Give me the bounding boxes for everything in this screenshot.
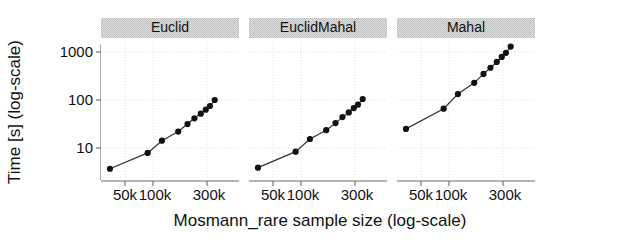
x-tick-label-300k-euclid: 300k [193,186,226,203]
data-point: Euclid: 82000 → 7.9 s [145,150,151,156]
y-tick-label-1000: 1000 [60,43,93,60]
data-point: Euclid: 112000 → 14.2 s [159,138,165,144]
facet-line-chart: Time [s] (log-scale) 1000 100 10 Euclid [0,0,632,240]
panel-strip-label-euclidmahal: EuclidMahal [280,19,356,35]
plot-area-euclidmahal [249,42,387,180]
panel-strip-label-mahal: Mahal [447,19,485,35]
data-point: EuclidMahal: 262000 → 55 s [346,109,352,115]
data-point: EuclidMahal: 36000 → 3.9 s [255,165,261,171]
data-point: Euclid: 160000 → 22 s [175,128,181,134]
data-point: Mahal: 355000 → 1300 s [508,43,514,49]
data-point: Mahal: 262000 → 620 s [494,59,500,65]
x-tick-label-50k-euclidmahal: 50k [261,186,286,203]
x-tick-label-50k-euclid: 50k [113,186,138,203]
data-point: Euclid: 262000 → 52 s [198,111,204,117]
data-point: Euclid: 355000 → 100 s [212,97,218,103]
data-point: Euclid: 228000 → 41.5 s [191,115,197,121]
x-axis-title: Mosmann_rare sample size (log-scale) [174,211,467,230]
data-point: EuclidMahal: 355000 → 105 s [360,96,366,102]
data-point: EuclidMahal: 160000 → 23.5 s [323,127,329,133]
data-point: Euclid: 36000 → 3.7 s [107,166,113,172]
panel-euclid: Euclid Euclid: 36000 → 3.7 sEuclid: 8200… [101,18,239,203]
panel-euclidmahal: EuclidMahal EuclidMahal: 36000 → 3.9 sEu… [249,18,387,203]
data-point: EuclidMahal: 196000 → 33 s [332,120,338,126]
x-tick-label-100k-euclid: 100k [139,186,172,203]
data-point: EuclidMahal: 228000 → 44 s [339,114,345,120]
x-tick-label-300k-mahal: 300k [489,186,522,203]
data-point: EuclidMahal: 112000 → 15.4 s [307,136,313,142]
data-point: Mahal: 82000 → 66 s [441,106,447,112]
y-tick-label-10: 10 [76,139,93,156]
y-axis-title: Time [s] (log-scale) [5,40,24,184]
data-point: Euclid: 320000 → 75 s [207,103,213,109]
panel-mahal: Mahal Mahal: 36000 → 25 sMahal: 82000 → … [397,18,535,203]
data-point: Mahal: 36000 → 25 s [403,126,409,132]
data-point: Euclid: 196000 → 31.5 s [184,121,190,127]
data-point: EuclidMahal: 320000 → 80 s [355,102,361,108]
chart-figure: Time [s] (log-scale) 1000 100 10 Euclid [0,0,632,240]
x-tick-label-100k-euclidmahal: 100k [287,186,320,203]
data-point: Mahal: 112000 → 133 s [455,91,461,97]
plot-area-mahal [397,42,535,180]
data-point: EuclidMahal: 82000 → 8.4 s [293,149,299,155]
plot-area-euclid [101,42,239,180]
panel-strip-label-euclid: Euclid [151,19,189,35]
data-point: Mahal: 320000 → 960 s [503,50,509,56]
data-point: Mahal: 160000 → 228 s [471,80,477,86]
data-point: Mahal: 228000 → 470 s [487,65,493,71]
x-tick-label-50k-mahal: 50k [409,186,434,203]
data-point: Mahal: 196000 → 350 s [480,71,486,77]
x-tick-label-100k-mahal: 100k [435,186,468,203]
y-tick-label-100: 100 [68,91,93,108]
x-tick-label-300k-euclidmahal: 300k [341,186,374,203]
